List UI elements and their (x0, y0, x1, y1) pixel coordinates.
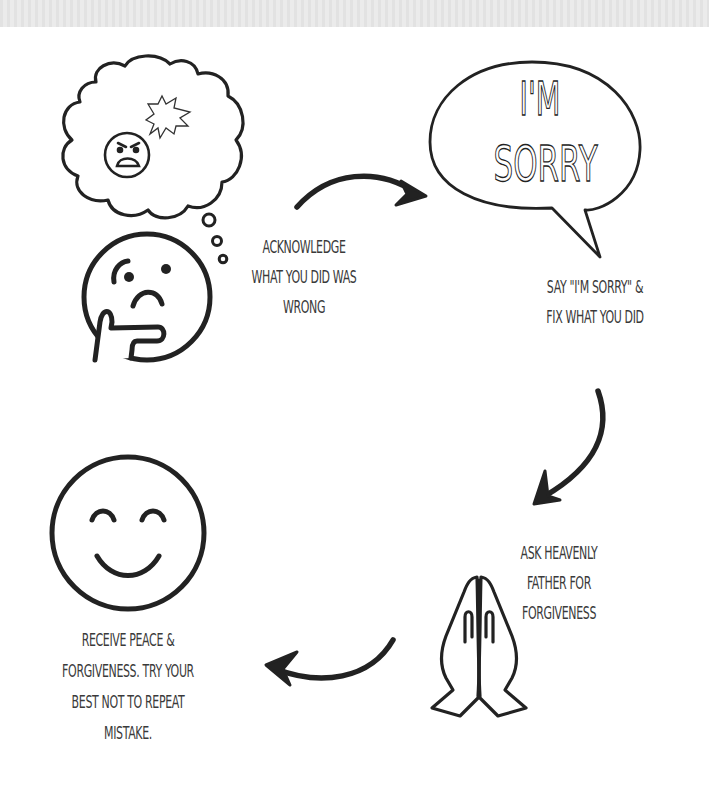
angry-face-icon (105, 133, 149, 177)
step-1-line-1: ACKNOWLEDGE (239, 232, 369, 262)
arrow-down-icon (534, 391, 603, 504)
step-3-line-2: FATHER FOR (505, 568, 613, 598)
step-1-line-2: WHAT YOU DID WAS (239, 262, 369, 292)
step-2-line-1: SAY "I'M SORRY" & (527, 272, 664, 302)
smiling-face-icon (52, 457, 204, 609)
step-3-label: ASK HEAVENLY FATHER FOR FORGIVENESS (505, 538, 613, 628)
arrow-left-icon (266, 640, 393, 685)
step-3-line-3: FORGIVENESS (505, 598, 613, 628)
step-4-label: RECEIVE PEACE & FORGIVENESS. TRY YOUR BE… (49, 625, 207, 749)
angry-face-thought-cloud-icon (63, 56, 243, 218)
step-1-line-3: WRONG (239, 292, 369, 322)
step-4-line-2: FORGIVENESS. TRY YOUR (49, 656, 207, 687)
step-4-line-1: RECEIVE PEACE & (49, 625, 207, 656)
speech-bubble-line2: SORRY (494, 136, 587, 192)
thought-bubbles-icon (203, 214, 227, 263)
step-4-line-3: BEST NOT TO REPEAT (49, 687, 207, 718)
step-3-line-1: ASK HEAVENLY (505, 538, 613, 568)
thinking-face-icon (84, 234, 210, 360)
step-1-label: ACKNOWLEDGE WHAT YOU DID WAS WRONG (239, 232, 369, 322)
step-4-line-4: MISTAKE. (49, 718, 207, 749)
arrow-right-icon (297, 176, 426, 207)
speech-bubble-line1: I'M (515, 74, 565, 124)
step-2-label: SAY "I'M SORRY" & FIX WHAT YOU DID (527, 272, 664, 332)
step-2-line-2: FIX WHAT YOU DID (527, 302, 664, 332)
